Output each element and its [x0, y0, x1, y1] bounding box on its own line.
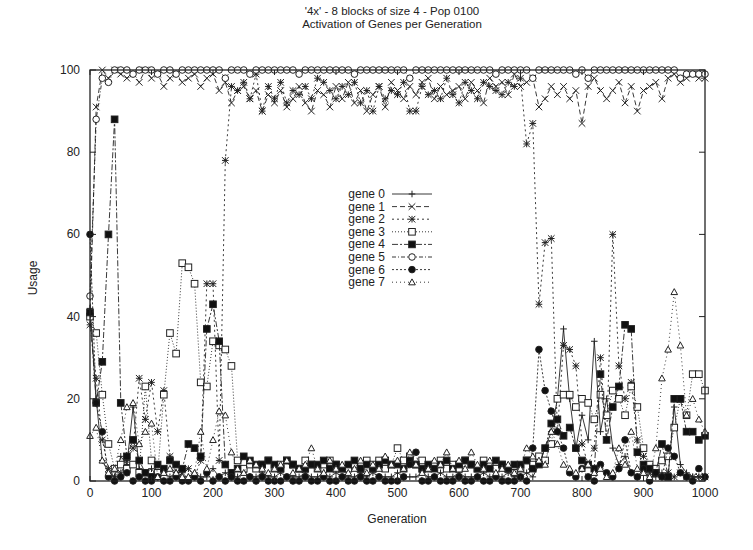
y-axis-label: Usage: [26, 260, 40, 295]
axis-ticks: 0100200300400500600700800900100002040608…: [60, 63, 719, 500]
y-tick-label: 20: [67, 392, 81, 406]
x-axis-label: Generation: [367, 512, 426, 526]
x-tick-label: 700: [510, 486, 530, 500]
legend-marker-icon: [409, 229, 416, 236]
x-tick-label: 200: [203, 486, 223, 500]
y-tick-label: 80: [67, 145, 81, 159]
x-tick-label: 800: [572, 486, 592, 500]
series-layer: [87, 67, 709, 485]
chart-subtitle: Activation of Genes per Generation: [302, 18, 482, 30]
x-tick-label: 300: [264, 486, 284, 500]
line-chart: '4x' - 8 blocks of size 4 - Pop 0100 Act…: [0, 0, 753, 550]
legend-marker-icon: [409, 266, 416, 273]
y-tick-label: 60: [67, 227, 81, 241]
x-tick-label: 100: [141, 486, 161, 500]
y-tick-label: 100: [60, 63, 80, 77]
chart-title: '4x' - 8 blocks of size 4 - Pop 0100: [305, 5, 479, 17]
x-tick-label: 400: [326, 486, 346, 500]
legend-marker-icon: [409, 241, 416, 248]
x-tick-label: 500: [387, 486, 407, 500]
legend-label: gene 7: [348, 275, 385, 289]
plot-frame: [90, 70, 705, 481]
x-tick-label: 600: [449, 486, 469, 500]
x-tick-label: 900: [633, 486, 653, 500]
legend-marker-icon: [409, 191, 416, 198]
legend-marker-icon: [409, 254, 416, 261]
x-tick-label: 0: [87, 486, 94, 500]
x-tick-label: 1000: [692, 486, 719, 500]
y-tick-label: 0: [73, 474, 80, 488]
legend-marker-icon: [409, 216, 416, 223]
legend-marker-icon: [409, 279, 416, 285]
legend: gene 0gene 1gene 2gene 3gene 4gene 5gene…: [348, 187, 432, 289]
y-tick-label: 40: [67, 310, 81, 324]
series-gene-2: [87, 71, 709, 480]
legend-item: gene 7: [348, 275, 432, 289]
